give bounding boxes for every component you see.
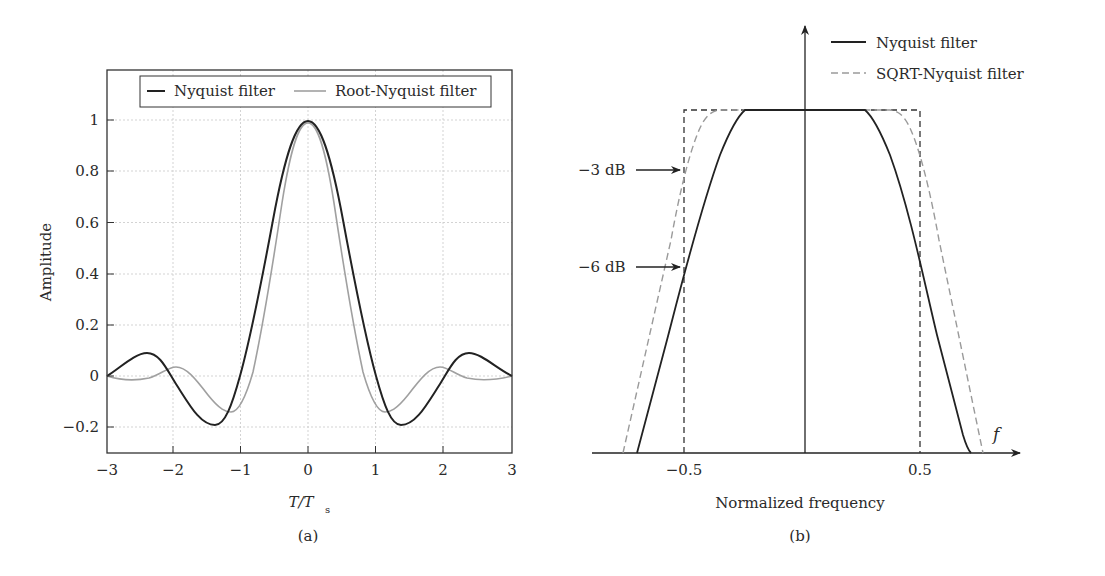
figure: −3 −2 −1 0 1 2 3 1 0.8 0.6 0.4 0.2 0 −0.… <box>0 0 1105 576</box>
legend-label-sqrt-nyquist: SQRT-Nyquist filter <box>876 65 1025 83</box>
x-tick-label: −2 <box>162 461 184 479</box>
legend-label-nyquist: Nyquist filter <box>174 82 276 100</box>
chart-b: −0.5 0.5 f Normalized frequency (b) −3 d… <box>578 26 1025 545</box>
series-sqrt-nyquist-curve <box>623 110 983 453</box>
x-tick-label: −3 <box>96 461 118 479</box>
legend-label-root-nyquist: Root-Nyquist filter <box>335 82 477 100</box>
x-tick-label: −1 <box>229 461 251 479</box>
caption-b: (b) <box>789 527 810 545</box>
caption-a: (a) <box>298 527 319 545</box>
y-tick-label: 0.6 <box>75 214 99 232</box>
x-tick-label: 3 <box>507 461 517 479</box>
series-ideal-brickwall <box>684 110 920 453</box>
y-tick-labels-a: 1 0.8 0.6 0.4 0.2 0 −0.2 <box>63 111 99 436</box>
x-tick-label: 0.5 <box>908 461 932 479</box>
plot-frame-a <box>107 70 512 453</box>
y-tick-label: 0.8 <box>75 162 99 180</box>
x-axis-label-a: T/T <box>288 493 314 511</box>
annotation-3db-label: −3 dB <box>578 161 626 179</box>
chart-a: −3 −2 −1 0 1 2 3 1 0.8 0.6 0.4 0.2 0 −0.… <box>37 70 517 545</box>
annotation-6db: −6 dB <box>578 258 680 276</box>
y-tick-label: 0 <box>89 367 99 385</box>
x-axis-label-subscript-a: s <box>325 504 330 515</box>
annotation-6db-label: −6 dB <box>578 258 626 276</box>
x-tick-label: −0.5 <box>666 461 702 479</box>
ticks-a <box>107 120 443 453</box>
y-tick-label: −0.2 <box>63 418 99 436</box>
legend-a: Nyquist filter Root-Nyquist filter <box>140 76 491 107</box>
annotation-3db: −3 dB <box>578 161 680 179</box>
x-axis-label-b: Normalized frequency <box>715 494 885 512</box>
x-tick-label: 2 <box>438 461 448 479</box>
y-axis-label-a: Amplitude <box>37 223 55 303</box>
x-tick-label: 0 <box>303 461 313 479</box>
y-tick-label: 1 <box>89 111 99 129</box>
y-tick-label: 0.4 <box>75 265 99 283</box>
legend-label-nyquist-b: Nyquist filter <box>876 34 978 52</box>
series-nyquist-curve <box>107 121 512 425</box>
legend-b: Nyquist filter SQRT-Nyquist filter <box>831 34 1025 83</box>
x-tick-label: 1 <box>371 461 381 479</box>
x-tick-labels-a: −3 −2 −1 0 1 2 3 <box>96 461 517 479</box>
grid-a <box>107 70 512 453</box>
axis-symbol-f: f <box>991 424 1002 444</box>
y-tick-label: 0.2 <box>75 316 99 334</box>
